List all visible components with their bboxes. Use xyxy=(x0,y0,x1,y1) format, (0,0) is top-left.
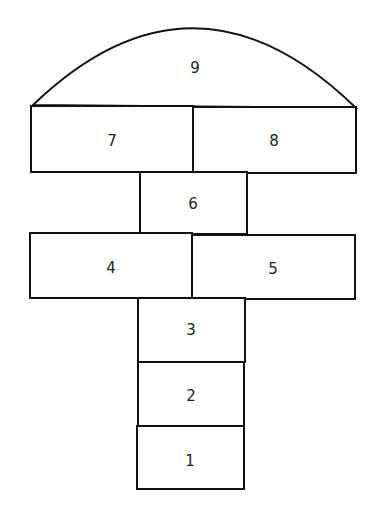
label-5: 5 xyxy=(268,260,278,278)
label-6: 6 xyxy=(188,195,198,213)
label-8: 8 xyxy=(269,132,279,150)
label-3: 3 xyxy=(186,321,196,339)
label-2: 2 xyxy=(186,387,196,405)
label-4: 4 xyxy=(106,259,116,277)
label-7: 7 xyxy=(107,132,117,150)
label-9: 9 xyxy=(190,59,200,77)
label-1: 1 xyxy=(185,452,195,470)
hopscotch-diagram: 9 7 8 6 4 5 3 2 1 xyxy=(0,0,375,522)
